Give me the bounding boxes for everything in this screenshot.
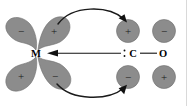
metal-lobe-lower-right: − (38, 57, 71, 89)
backbonding-diagram-canvas: − + + − M + (0, 0, 187, 106)
carbon-lobe-upper: + (117, 20, 140, 43)
metal-lobe-lower-left: + (6, 57, 37, 91)
lone-pair-dot-top (124, 50, 126, 52)
chemistry-figure: − + + − M + (0, 0, 187, 106)
metal-d-orbital: − + + − M (6, 17, 71, 91)
metal-lobe-lower-left-sign: + (18, 70, 24, 82)
carbon-lobe-upper-sign: + (125, 25, 131, 37)
metal-lobe-upper-left-sign: − (18, 25, 24, 37)
carbon-atom-label: C (129, 48, 137, 59)
carbon-lone-pair-icon (124, 50, 126, 57)
oxygen-atom-label: O (159, 48, 167, 59)
sigma-donation-arrow (47, 50, 121, 57)
metal-lobe-lower-right-sign: − (52, 70, 58, 82)
lone-pair-dot-bottom (124, 55, 126, 57)
metal-lobe-upper-right-sign: + (51, 25, 57, 37)
metal-lobe-upper-right: + (38, 17, 70, 50)
carbon-lobe-lower-sign: − (125, 71, 131, 83)
oxygen-lobe-lower: + (153, 66, 176, 89)
oxygen-lobe-upper: − (153, 20, 176, 43)
oxygen-lobe-upper-sign: − (161, 25, 167, 37)
carbon-lobe-lower: − (117, 66, 140, 89)
sigma-donation-arrowhead (47, 50, 58, 57)
oxygen-lobe-lower-sign: + (161, 71, 167, 83)
metal-lobe-upper-left: − (6, 17, 37, 50)
metal-atom-label: M (31, 48, 41, 59)
carbonyl-group: C O (124, 48, 168, 59)
